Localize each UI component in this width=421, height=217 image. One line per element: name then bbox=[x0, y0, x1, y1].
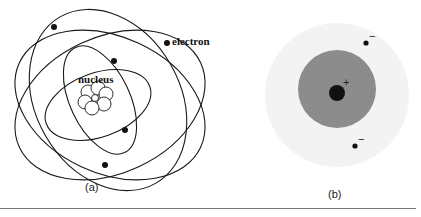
electron-dot bbox=[352, 143, 357, 148]
electron-charge-minus: − bbox=[369, 30, 375, 42]
nucleus-cluster bbox=[78, 81, 113, 115]
electron-dot bbox=[164, 40, 170, 46]
panel-b bbox=[265, 23, 409, 167]
atom-diagram: nucleus electron (a) + − − (b) bbox=[0, 0, 421, 217]
nucleus-label: nucleus bbox=[78, 73, 114, 85]
panel-a bbox=[0, 0, 229, 217]
electron-label: electron bbox=[172, 35, 210, 47]
electron-charge-minus: − bbox=[358, 133, 364, 145]
electron-dot bbox=[102, 162, 108, 168]
bottom-divider bbox=[0, 208, 416, 209]
electron-dot bbox=[51, 24, 57, 30]
caption-a: (a) bbox=[85, 181, 98, 193]
electron-dot bbox=[111, 58, 117, 64]
caption-b: (b) bbox=[328, 188, 341, 200]
electron-dot bbox=[122, 127, 128, 133]
electron-dot bbox=[363, 40, 368, 45]
nucleus-charge-plus: + bbox=[343, 76, 349, 88]
